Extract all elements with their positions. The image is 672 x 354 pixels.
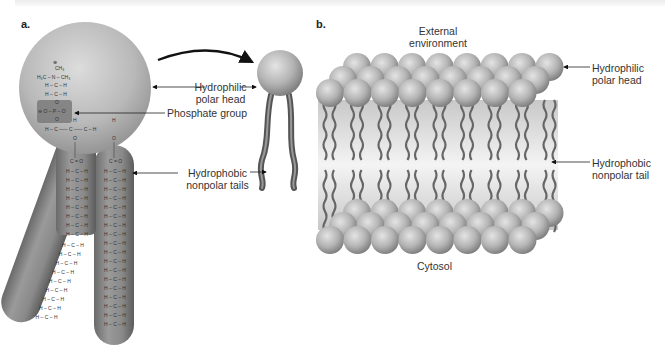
svg-text:H: H [112, 117, 116, 123]
svg-text:H – C – H: H – C – H [62, 242, 84, 248]
svg-text:H – C – H: H – C – H [104, 276, 126, 282]
inner-leaflet-heads [316, 199, 564, 254]
svg-text:H – C – H: H – C – H [104, 249, 126, 255]
svg-text:H – C – H: H – C – H [66, 222, 88, 228]
label-hydrophobic-nonpolar-tail-b: Hydrophobic nonpolar tail [592, 157, 651, 181]
svg-text:H – C – H: H – C – H [66, 168, 88, 174]
svg-text:H – C – H: H – C – H [104, 258, 126, 264]
svg-text:O: O [55, 99, 59, 105]
svg-text:H – C – H: H – C – H [52, 269, 74, 275]
svg-text:H – C – H: H – C – H [39, 305, 61, 311]
svg-text:H – C – H: H – C – H [45, 91, 67, 97]
label-hydrophobic-tails-a: Hydrophobic nonpolar tails [180, 167, 255, 191]
simplified-phospholipid [257, 50, 303, 188]
svg-text:H – C – H: H – C – H [66, 177, 88, 183]
svg-text:O: O [73, 135, 77, 141]
phospholipid-model: ⊕ CH₃ H₃C – N – CH₃ H – C – H H – C – H … [0, 22, 151, 345]
svg-text:H – C – H: H – C – H [104, 240, 126, 246]
svg-text:H – C – H: H – C – H [36, 314, 58, 320]
svg-text:H – C – H: H – C – H [66, 204, 88, 210]
svg-text:H – C – H: H – C – H [104, 321, 126, 327]
svg-text:H – C – H: H – C – H [104, 303, 126, 309]
svg-text:H₃C – N – CH₃: H₃C – N – CH₃ [37, 74, 70, 80]
svg-text:H – C – H: H – C – H [55, 260, 77, 266]
svg-text:H – C – H: H – C – H [59, 251, 81, 257]
svg-text:H – C – H: H – C – H [104, 312, 126, 318]
svg-text:H – C – H: H – C – H [46, 287, 68, 293]
label-cytosol: Cytosol [417, 260, 452, 272]
svg-text:H – C – H: H – C – H [66, 213, 88, 219]
label-hydrophilic-polar-head-b: Hydrophilic polar head [592, 62, 644, 86]
svg-text:O: O [55, 116, 59, 122]
svg-text:H – C – H: H – C – H [66, 186, 88, 192]
svg-text:H – C – H: H – C – H [104, 294, 126, 300]
svg-text:H – C – H: H – C – H [104, 195, 126, 201]
svg-text:C = O: C = O [109, 158, 122, 164]
svg-text:H – C – H: H – C – H [104, 204, 126, 210]
svg-text:H – C – H: H – C – H [104, 222, 126, 228]
svg-text:H – C ––– C ––– C – H: H – C ––– C ––– C – H [45, 126, 97, 132]
svg-text:H – C – H: H – C – H [104, 213, 126, 219]
svg-text:H – C – H: H – C – H [104, 168, 126, 174]
panel-a-letter: a. [21, 18, 30, 30]
svg-text:H: H [73, 117, 77, 123]
svg-text:H – C – H: H – C – H [104, 177, 126, 183]
svg-text:H – C – H: H – C – H [66, 231, 88, 237]
diagram-canvas: ⊕ CH₃ H₃C – N – CH₃ H – C – H H – C – H … [0, 0, 672, 354]
svg-text:H – C – H: H – C – H [104, 186, 126, 192]
label-external-environment: External environment [398, 25, 478, 49]
svg-text:H – C – H: H – C – H [49, 278, 71, 284]
svg-text:CH₃: CH₃ [55, 65, 64, 71]
lipid-bilayer [316, 53, 564, 254]
svg-text:H – C – H: H – C – H [104, 231, 126, 237]
svg-text:H – C – H: H – C – H [66, 195, 88, 201]
svg-text:H – C – H: H – C – H [104, 285, 126, 291]
label-phosphate-group: Phosphate group [167, 107, 247, 119]
label-hydrophilic-polar-head-a: Hydrophilic polar head [183, 81, 258, 105]
curved-arrow [158, 50, 252, 62]
svg-text:H – C – H: H – C – H [45, 82, 67, 88]
polar-head-sphere [19, 22, 151, 154]
svg-text:H – C – H: H – C – H [104, 267, 126, 273]
svg-text:O: O [112, 135, 116, 141]
panel-b-letter: b. [316, 18, 326, 30]
svg-text:C = O: C = O [70, 158, 83, 164]
svg-text:⊖ O – P – O: ⊖ O – P – O [38, 108, 66, 114]
outer-leaflet-heads [316, 53, 564, 107]
svg-text:H – C – H: H – C – H [42, 296, 64, 302]
